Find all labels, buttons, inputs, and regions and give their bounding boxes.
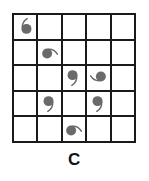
grid-cell-r3-c4[interactable] [87, 66, 111, 92]
grid-cell-r5-c2[interactable] [38, 117, 62, 143]
grid-cell-r4-c5[interactable] [112, 92, 136, 118]
puzzle-grid [12, 13, 136, 143]
comma-mark-icon [64, 120, 83, 139]
grid-cell-r3-c3[interactable] [63, 66, 87, 92]
grid-cell-r2-c5[interactable] [112, 41, 136, 67]
grid-cell-r4-c2[interactable] [38, 92, 62, 118]
grid-cell-r2-c1[interactable] [14, 41, 38, 67]
comma-mark-icon [16, 17, 35, 36]
grid-cell-r5-c3[interactable] [63, 117, 87, 143]
grid-cell-r3-c1[interactable] [14, 66, 38, 92]
grid-cell-r3-c5[interactable] [112, 66, 136, 92]
grid-cell-r4-c1[interactable] [14, 92, 38, 118]
comma-mark-icon [40, 43, 59, 62]
grid-cell-r5-c4[interactable] [87, 117, 111, 143]
grid-cell-r5-c1[interactable] [14, 117, 38, 143]
grid-cell-r5-c5[interactable] [112, 117, 136, 143]
grid-cell-r4-c4[interactable] [87, 92, 111, 118]
grid-cell-r1-c4[interactable] [87, 15, 111, 41]
comma-mark-icon [89, 94, 108, 113]
comma-mark-icon [64, 68, 83, 87]
comma-mark-icon [89, 68, 108, 87]
grid-cell-r1-c2[interactable] [38, 15, 62, 41]
grid-cell-r3-c2[interactable] [38, 66, 62, 92]
grid-cell-r2-c3[interactable] [63, 41, 87, 67]
puzzle-figure: C [0, 0, 149, 181]
figure-caption: C [0, 150, 149, 170]
grid-cell-r1-c1[interactable] [14, 15, 38, 41]
comma-mark-icon [40, 94, 59, 113]
grid-cell-r1-c5[interactable] [112, 15, 136, 41]
grid-cell-r4-c3[interactable] [63, 92, 87, 118]
grid-cell-r2-c2[interactable] [38, 41, 62, 67]
grid-cell-r2-c4[interactable] [87, 41, 111, 67]
grid-cell-r1-c3[interactable] [63, 15, 87, 41]
